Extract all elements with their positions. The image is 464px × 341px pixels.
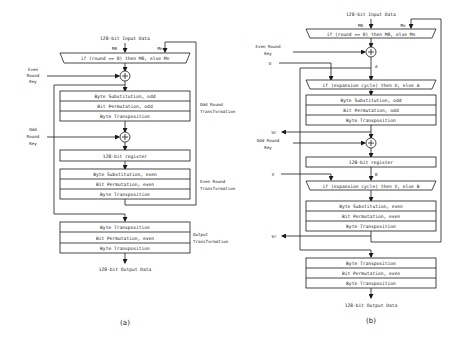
odd-key-label-1: Odd (29, 127, 37, 132)
round-mux-label: if (round == 0) then M0, else Mn (327, 32, 416, 37)
mux-input-m0: M0 (112, 46, 118, 51)
register-label: 128-bit register (103, 154, 147, 159)
output-step-1: Byte Transposition (346, 261, 396, 266)
even-key-label-2: Key (264, 51, 272, 56)
register-label: 128-bit register (349, 160, 393, 165)
odd-key-label-1: Odd Round (257, 138, 280, 143)
even-round-label-2: Transformation (200, 186, 236, 191)
u-label: U (269, 61, 272, 66)
odd-key-label-3: Key (29, 141, 37, 146)
even-step-3: Byte Transposition (100, 192, 150, 197)
b-label: B (375, 172, 378, 177)
odd-round-label-1: Odd Round (200, 102, 223, 107)
odd-key-label-2: Key (264, 145, 272, 150)
output-step-1: Byte Transposition (100, 225, 150, 230)
input-data-label: 128-bit Input Data (346, 12, 396, 17)
even-round-label-1: Even Round (200, 179, 226, 184)
v-label: V (272, 172, 275, 177)
output-label-1: Output (193, 232, 209, 237)
even-key-label-2: Round (27, 73, 40, 78)
output-data-label: 128-bit Output Data (345, 303, 398, 308)
diagram-a: 128-bit Input Data M0 Mn if (round == 0)… (27, 36, 236, 327)
caption-a: (a) (120, 319, 130, 327)
vr-label: Vr (271, 234, 277, 239)
odd-key-label-2: Round (27, 134, 40, 139)
even-step-1: Byte Substitution, even (93, 172, 157, 177)
even-key-label-1: Even (28, 67, 39, 72)
input-data-label: 128-bit Input Data (100, 36, 150, 41)
mux-input-mn: Mn (157, 46, 163, 51)
odd-step-2: Bit Permutation, odd (97, 104, 153, 109)
even-step-2: Bit Permutation, even (96, 182, 154, 187)
even-step-3: Byte Transposition (346, 224, 396, 229)
v-arrow (281, 174, 331, 180)
even-step-1: Byte Substitution, even (339, 204, 403, 209)
to-feedback (125, 199, 188, 205)
output-step-3: Byte Transposition (100, 246, 150, 251)
caption-b: (b) (366, 317, 376, 325)
odd-round-label-2: Transformation (200, 109, 236, 114)
odd-step-3: Byte Transposition (100, 114, 150, 119)
even-key-label-1: Even Round (255, 44, 281, 49)
output-label-2: Transformation (193, 239, 229, 244)
diagram-b: 128-bit Input Data M0 Mn if (round == 0)… (255, 12, 441, 325)
output-data-label: 128-bit Output Data (99, 267, 152, 272)
output-step-3: Byte Transposition (346, 281, 396, 286)
round-mux-label: if (round == 0) then M0, else Mn (81, 56, 170, 61)
odd-step-2: Bit Permutation, odd (343, 108, 399, 113)
mux-input-mn: Mn (400, 23, 406, 28)
expansion-mux-u-label: if (expansion cycle) then U, else A (323, 83, 420, 88)
output-step-2: Bit Permutation, even (96, 236, 154, 241)
even-step-2: Bit Permutation, even (342, 214, 400, 219)
a-label: A (375, 64, 378, 69)
output-step-2: Bit Permutation, even (342, 271, 400, 276)
odd-step-1: Byte Substitution, odd (341, 98, 402, 103)
u-arrow (279, 63, 331, 80)
ur-label: Ur (271, 130, 277, 135)
odd-step-3: Byte Transposition (346, 118, 396, 123)
mux-input-m0: M0 (358, 23, 364, 28)
odd-step-1: Byte Substitution, odd (95, 94, 156, 99)
expansion-mux-v-label: if (expansion cycle) then V, else B (323, 184, 420, 189)
even-key-label-3: Key (29, 79, 37, 84)
